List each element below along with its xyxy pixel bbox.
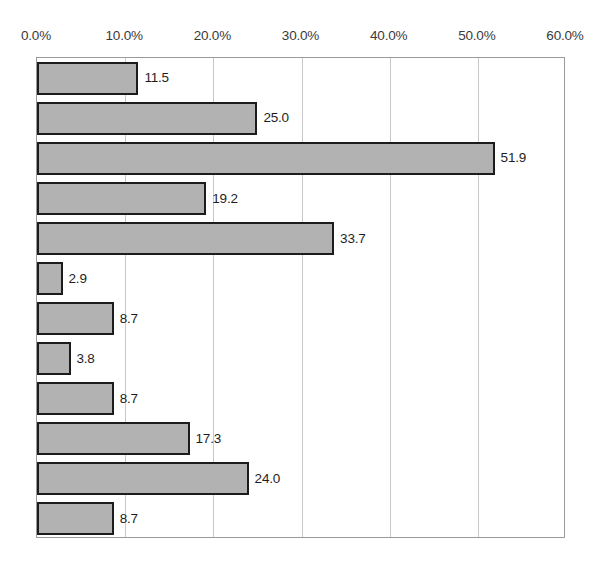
bar-value-label: 17.3	[196, 432, 221, 446]
bar-row: 17.3	[37, 422, 564, 455]
bar[interactable]	[37, 502, 114, 535]
x-tick-label: 20.0%	[194, 28, 231, 43]
bar[interactable]	[37, 302, 114, 335]
bar-row: 8.7	[37, 302, 564, 335]
bar-value-label: 19.2	[212, 192, 237, 206]
bar-value-label: 11.5	[144, 71, 168, 85]
bar[interactable]	[37, 62, 138, 95]
bar-value-label: 3.8	[77, 352, 95, 366]
x-axis-tick-labels: 0.0%10.0%20.0%30.0%40.0%50.0%60.0%	[0, 28, 592, 50]
bar[interactable]	[37, 102, 257, 135]
bar[interactable]	[37, 222, 334, 255]
bar-value-label: 2.9	[69, 272, 87, 286]
bar-value-label: 33.7	[340, 232, 365, 246]
bar[interactable]	[37, 342, 71, 375]
x-tick-label: 30.0%	[282, 28, 319, 43]
bar-row: 2.9	[37, 262, 564, 295]
bar[interactable]	[37, 182, 206, 215]
bar-value-label: 51.9	[501, 151, 526, 165]
plot-area: 11.525.051.919.233.72.98.73.88.717.324.0…	[36, 57, 565, 538]
bar-chart: 0.0%10.0%20.0%30.0%40.0%50.0%60.0% 11.52…	[0, 0, 592, 570]
bar-row: 51.9	[37, 142, 564, 175]
bar[interactable]	[37, 262, 63, 295]
bar-row: 24.0	[37, 462, 564, 495]
bar-row: 11.5	[37, 62, 564, 95]
bar-row: 25.0	[37, 102, 564, 135]
bar-value-label: 8.7	[120, 512, 138, 526]
bar-value-label: 8.7	[120, 312, 138, 326]
x-tick-label: 0.0%	[21, 28, 51, 43]
bar-value-label: 8.7	[120, 392, 138, 406]
bar-row: 8.7	[37, 502, 564, 535]
bars-layer: 11.525.051.919.233.72.98.73.88.717.324.0…	[37, 58, 564, 537]
bar[interactable]	[37, 462, 249, 495]
x-tick-label: 10.0%	[106, 28, 143, 43]
x-tick-label: 50.0%	[458, 28, 495, 43]
bar[interactable]	[37, 142, 495, 175]
bar-row: 8.7	[37, 382, 564, 415]
bar[interactable]	[37, 422, 190, 455]
x-tick-label: 60.0%	[546, 28, 583, 43]
x-tick-label: 40.0%	[370, 28, 407, 43]
bar-value-label: 24.0	[255, 472, 280, 486]
bar-row: 3.8	[37, 342, 564, 375]
bar[interactable]	[37, 382, 114, 415]
bar-value-label: 25.0	[263, 111, 288, 125]
bar-row: 33.7	[37, 222, 564, 255]
bar-row: 19.2	[37, 182, 564, 215]
